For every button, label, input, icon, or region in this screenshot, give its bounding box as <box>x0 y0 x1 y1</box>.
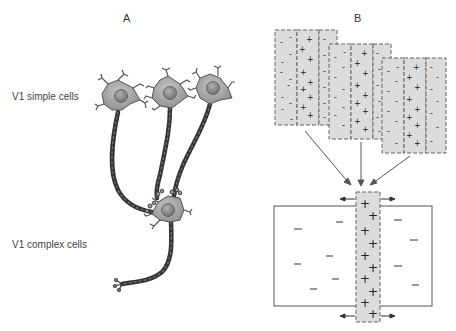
svg-text:-: - <box>343 48 346 57</box>
svg-text:-: - <box>387 67 390 76</box>
svg-text:+: + <box>413 63 420 72</box>
svg-text:+: + <box>354 59 361 68</box>
svg-text:-: - <box>323 113 326 122</box>
svg-text:-: - <box>323 83 326 92</box>
svg-text:-: - <box>430 109 433 118</box>
svg-text:-: - <box>436 73 439 82</box>
svg-text:-: - <box>387 127 390 136</box>
svg-text:-: - <box>376 81 379 90</box>
svg-text:+: + <box>362 69 369 78</box>
svg-text:-: - <box>281 58 284 67</box>
svg-text:+: + <box>361 49 368 58</box>
svg-text:-: - <box>289 50 292 59</box>
svg-text:+: + <box>362 91 369 100</box>
svg-text:+: + <box>300 68 307 77</box>
svg-text:-: - <box>387 87 390 96</box>
svg-text:-: - <box>323 35 326 44</box>
svg-text:-: - <box>430 85 433 94</box>
svg-text:+: + <box>368 209 378 223</box>
svg-text:-: - <box>430 137 433 146</box>
svg-text:-: - <box>334 111 337 120</box>
svg-text:-: - <box>395 97 398 106</box>
complex-receptive-field: ++ ++ ++ ++ ++ <box>274 192 432 322</box>
svg-text:-: - <box>280 68 283 77</box>
svg-text:+: + <box>360 224 370 238</box>
simple-receptive-field-3: --- --- --- +++ +++ +++ --- --- - <box>382 58 446 153</box>
svg-text:+: + <box>307 111 314 120</box>
svg-text:+: + <box>354 99 361 108</box>
svg-text:+: + <box>406 131 413 140</box>
svg-text:-: - <box>334 53 337 62</box>
svg-text:-: - <box>436 123 439 132</box>
svg-text:-: - <box>376 113 379 122</box>
svg-text:-: - <box>436 97 439 106</box>
svg-text:-: - <box>323 51 326 60</box>
svg-text:+: + <box>362 107 369 116</box>
svg-text:-: - <box>342 85 345 94</box>
svg-text:+: + <box>406 113 413 122</box>
svg-text:+: + <box>354 117 361 126</box>
svg-text:+: + <box>414 83 421 92</box>
svg-text:-: - <box>280 38 283 47</box>
svg-text:+: + <box>368 307 378 321</box>
svg-text:-: - <box>323 67 326 76</box>
svg-text:+: + <box>354 81 361 90</box>
svg-text:-: - <box>289 99 292 108</box>
svg-text:+: + <box>306 35 313 44</box>
svg-text:+: + <box>307 93 314 102</box>
svg-text:+: + <box>307 78 314 87</box>
svg-text:-: - <box>342 103 345 112</box>
svg-text:-: - <box>378 65 381 74</box>
svg-text:-: - <box>290 115 293 124</box>
svg-text:-: - <box>342 121 345 130</box>
svg-text:-: - <box>289 33 292 42</box>
svg-text:-: - <box>376 49 379 58</box>
svg-text:-: - <box>396 63 399 72</box>
svg-text:-: - <box>378 97 381 106</box>
svg-text:-: - <box>334 93 337 102</box>
svg-text:-: - <box>395 77 398 86</box>
svg-text:+: + <box>414 139 421 148</box>
svg-text:+: + <box>406 73 413 82</box>
svg-text:-: - <box>395 139 398 148</box>
svg-text:-: - <box>342 63 345 72</box>
svg-text:+: + <box>300 103 307 112</box>
svg-text:+: + <box>406 95 413 104</box>
svg-text:+: + <box>360 272 370 286</box>
svg-text:-: - <box>334 73 337 82</box>
svg-text:-: - <box>287 81 290 90</box>
svg-text:+: + <box>299 45 306 54</box>
svg-text:-: - <box>378 127 381 136</box>
panel-b-receptive-field-diagram: --- --- --- -- +++ +++ +++ --- --- --- -… <box>0 0 456 331</box>
svg-text:+: + <box>414 105 421 114</box>
svg-text:+: + <box>300 85 307 94</box>
simple-receptive-field-1: --- --- --- -- +++ +++ +++ --- --- <box>275 30 337 125</box>
svg-text:-: - <box>430 63 433 72</box>
svg-text:-: - <box>395 117 398 126</box>
svg-text:+: + <box>307 55 314 64</box>
svg-text:-: - <box>387 107 390 116</box>
svg-text:+: + <box>362 125 369 134</box>
svg-text:+: + <box>414 121 421 130</box>
svg-text:-: - <box>281 105 284 114</box>
svg-text:-: - <box>281 93 284 102</box>
svg-text:-: - <box>323 99 326 108</box>
